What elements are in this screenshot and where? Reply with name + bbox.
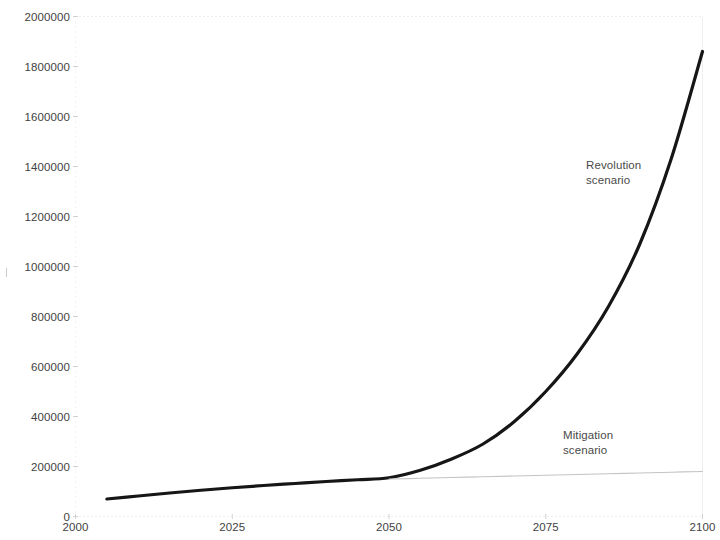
y-axis-tick-label: 2000000 (0, 11, 70, 23)
y-axis-tick-label: 200000 (0, 461, 70, 473)
x-axis-tick-label-text: 2100 (668, 521, 720, 534)
y-axis-tick-label: 1400000 (0, 161, 70, 173)
y-axis-tick-label-text: 1000000 (4, 261, 70, 273)
y-axis-tick-label-text: 200000 (4, 461, 70, 473)
y-axis-tick-label-text: 1800000 (4, 61, 70, 73)
y-axis-tick-label: 1200000 (0, 211, 70, 223)
x-axis-tick-label: 2050 (354, 521, 424, 535)
x-axis-tick-label: 2100 (668, 521, 720, 535)
annotation-revolution-scenario: Revolution scenario (586, 158, 641, 187)
y-axis-tick-label-text: 600000 (4, 361, 70, 373)
x-axis-tick-label-text: 2025 (197, 521, 267, 534)
y-axis-tick-label-text: 1400000 (4, 161, 70, 173)
x-axis-tick-label-text: 2050 (354, 521, 424, 534)
series-line-mitigation (389, 472, 703, 480)
y-axis-tick-label-text: 2000000 (4, 11, 70, 23)
y-axis-tick-label: 600000 (0, 361, 70, 373)
y-axis-tick-label: 1800000 (0, 61, 70, 73)
x-axis-tick-label-text: 2075 (511, 521, 581, 534)
y-axis-tick-label-text: 1200000 (4, 211, 70, 223)
x-axis-tick-label: 2025 (197, 521, 267, 535)
y-axis-tick-label-text: 400000 (4, 411, 70, 423)
y-axis-tick-label: 1600000 (0, 111, 70, 123)
y-axis-tick-label: 800000 (0, 311, 70, 323)
stray-tick-mark (6, 268, 7, 277)
x-axis-tick-label: 2075 (511, 521, 581, 535)
y-axis-tick-label: 400000 (0, 411, 70, 423)
y-axis-tick-label-text: 1600000 (4, 111, 70, 123)
y-axis-tick-label: 1000000 (0, 261, 70, 273)
x-axis-tick-label-text: 2000 (41, 521, 111, 534)
x-axis-tick-label: 2000 (41, 521, 111, 535)
y-axis-tick-label-text: 800000 (4, 311, 70, 323)
annotation-mitigation-scenario: Mitigation scenario (563, 428, 613, 457)
